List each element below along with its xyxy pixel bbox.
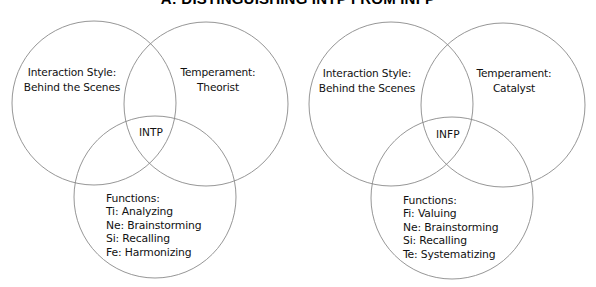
circle-temperament: [124, 22, 288, 186]
functions-heading: Functions:: [106, 192, 201, 205]
interaction-style-label: Interaction Style: Behind the Scenes: [22, 65, 122, 94]
venn-diagram-infp: Interaction Style: Behind the Scenes Tem…: [297, 0, 595, 287]
function-item: Si: Recalling: [403, 234, 498, 247]
interaction-style-value: Behind the Scenes: [317, 81, 417, 96]
functions-list: Functions: Fi: Valuing Ne: Brainstorming…: [403, 194, 498, 261]
function-item: Ne: Brainstorming: [403, 221, 498, 234]
functions-list: Functions: Ti: Analyzing Ne: Brainstormi…: [106, 192, 201, 259]
temperament-heading: Temperament:: [474, 66, 554, 81]
function-item: Ne: Brainstorming: [106, 219, 201, 232]
temperament-value: Catalyst: [474, 81, 554, 96]
interaction-style-heading: Interaction Style:: [22, 65, 122, 80]
functions-heading: Functions:: [403, 194, 498, 207]
temperament-value: Theorist: [178, 80, 258, 95]
circle-temperament: [421, 23, 585, 187]
type-label: INTP: [139, 126, 163, 138]
function-item: Ti: Analyzing: [106, 205, 201, 218]
interaction-style-label: Interaction Style: Behind the Scenes: [317, 66, 417, 95]
function-item: Si: Recalling: [106, 232, 201, 245]
venn-diagram-intp: Interaction Style: Behind the Scenes Tem…: [0, 0, 298, 287]
interaction-style-heading: Interaction Style:: [317, 66, 417, 81]
function-item: Fi: Valuing: [403, 207, 498, 220]
temperament-label: Temperament: Catalyst: [474, 66, 554, 95]
type-label: INFP: [436, 128, 460, 140]
interaction-style-value: Behind the Scenes: [22, 80, 122, 95]
temperament-heading: Temperament:: [178, 65, 258, 80]
function-item: Fe: Harmonizing: [106, 246, 201, 259]
circle-interaction-style: [12, 21, 176, 185]
circle-interaction-style: [309, 22, 473, 186]
temperament-label: Temperament: Theorist: [178, 65, 258, 94]
function-item: Te: Systematizing: [403, 248, 498, 261]
